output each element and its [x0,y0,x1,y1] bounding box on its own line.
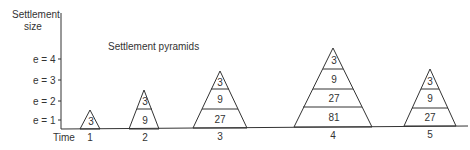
pyramid-3-tier-1: 3 [217,77,223,88]
pyramid-2-tier-2: 9 [142,115,148,126]
time-label-2: 2 [142,132,148,143]
y-tick-e4: e = 4 [33,54,56,65]
y-tick-e3: e = 3 [33,75,56,86]
y-axis-label-line2: size [24,21,42,32]
time-label-4: 4 [330,130,336,141]
pyramid-5-tier-2: 9 [427,93,433,104]
y-ticks: e = 1 e = 2 e = 3 e = 4 [33,54,61,126]
pyramid-4-tier-3: 27 [328,93,340,104]
pyramid-5-tier-3: 27 [424,112,436,123]
pyramid-time-2: 3 9 [129,90,159,129]
time-label-5: 5 [427,129,433,140]
time-label-1: 1 [87,132,93,143]
y-axis-label-line1: Settlement [12,9,60,20]
pyramid-3-tier-2: 9 [217,94,223,105]
pyramid-1-tier-1: 3 [88,116,94,127]
pyramid-4-tier-4: 81 [328,112,340,123]
pyramid-2-tier-1: 3 [142,96,148,107]
pyramid-4-tier-2: 9 [331,74,337,85]
pyramid-3-tier-3: 27 [214,114,226,125]
pyramid-time-3: 3 9 27 [193,71,247,128]
pyramid-5-tier-1: 3 [427,76,433,87]
x-axis-label: Time [53,132,75,143]
y-tick-e2: e = 2 [33,96,56,107]
diagram-title: Settlement pyramids [108,41,199,52]
pyramid-4-tier-1: 3 [331,55,337,66]
pyramid-time-5: 3 9 27 [404,69,456,126]
pyramid-time-4: 3 9 27 81 [294,48,372,127]
pyramid-time-1: 3 [80,110,100,129]
settlement-pyramids-diagram: Settlement size e = 1 e = 2 e = 3 e = 4 … [0,0,470,150]
y-tick-e1: e = 1 [33,115,56,126]
time-label-3: 3 [217,131,223,142]
